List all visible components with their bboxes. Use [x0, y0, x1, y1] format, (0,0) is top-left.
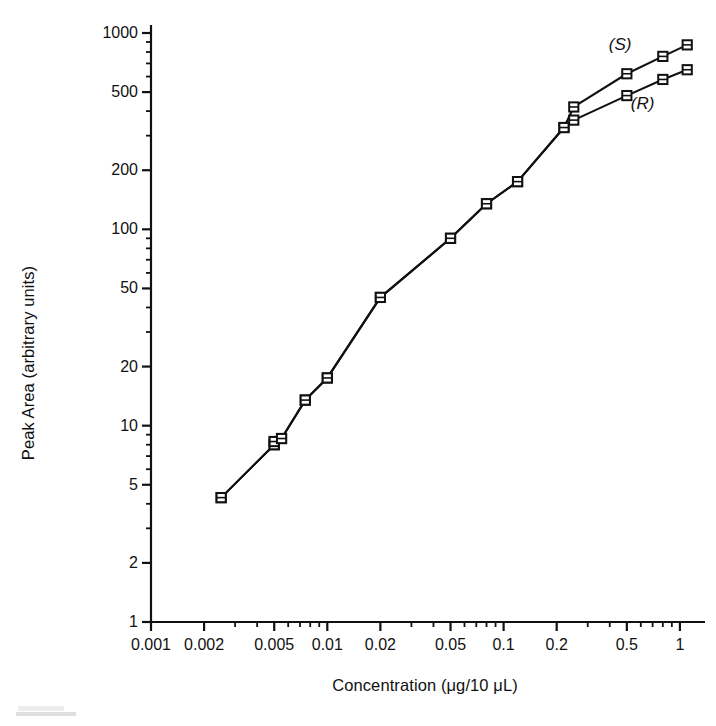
x-tick-label: 0.001 [131, 636, 171, 654]
x-tick-label: 0.1 [492, 636, 514, 654]
y-tick-label: 10 [70, 417, 138, 435]
data-series [217, 40, 692, 502]
x-tick-label: 1 [675, 636, 684, 654]
series-label-s: (S) [609, 35, 632, 55]
scan-artifact [18, 706, 64, 711]
y-tick-label: 2 [70, 554, 138, 572]
axis-ticks [142, 33, 680, 631]
x-tick-label: 0.05 [435, 636, 466, 654]
x-tick-label: 0.01 [312, 636, 343, 654]
axes [151, 25, 705, 622]
y-tick-label: 1000 [70, 24, 138, 42]
y-tick-label: 100 [70, 220, 138, 238]
y-axis-title: Peak Area (arbitrary units) [19, 163, 45, 563]
x-tick-label: 0.002 [184, 636, 224, 654]
x-tick-label: 0.2 [546, 636, 568, 654]
y-tick-label: 200 [70, 161, 138, 179]
series-label-r: (R) [631, 94, 655, 114]
x-axis-title: Concentration (μg/10 μL) [150, 676, 700, 695]
x-tick-label: 0.5 [616, 636, 638, 654]
y-tick-label: 5 [70, 476, 138, 494]
y-tick-label: 500 [70, 83, 138, 101]
y-tick-label: 1 [70, 613, 138, 631]
y-tick-label: 50 [70, 279, 138, 297]
scan-artifact-line [16, 712, 76, 716]
chart-figure: Peak Area (arbitrary units) Concentratio… [0, 0, 716, 726]
x-tick-label: 0.005 [254, 636, 294, 654]
x-tick-label: 0.02 [365, 636, 396, 654]
y-tick-label: 20 [70, 358, 138, 376]
